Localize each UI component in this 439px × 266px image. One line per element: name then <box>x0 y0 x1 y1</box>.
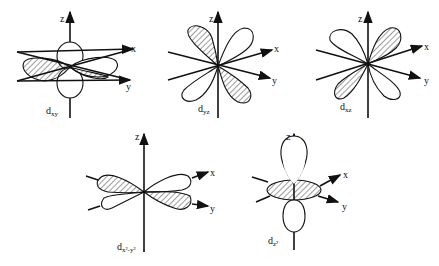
y-axis <box>17 80 130 81</box>
orbital-label-dxy: dxy <box>46 105 59 118</box>
x-label: x <box>424 41 429 52</box>
z-label: z <box>135 131 140 142</box>
x-label: x <box>210 167 215 178</box>
y-label: y <box>210 203 215 214</box>
x-label: x <box>343 169 348 180</box>
z-label: z <box>286 131 291 142</box>
y-axis <box>168 52 270 78</box>
orbital-label-dz2: dz² <box>268 235 278 248</box>
z-label: z <box>358 13 363 24</box>
y-label: y <box>272 75 277 86</box>
orbital-dyz: z x y dyz <box>168 12 279 118</box>
y-label: y <box>342 201 347 212</box>
orbital-label-dxz: dxz <box>340 101 352 114</box>
orbital-dxy: z x y dxy <box>17 12 136 118</box>
y-label: y <box>424 75 429 86</box>
z-label: z <box>60 13 65 24</box>
x-label: x <box>274 43 279 54</box>
orbital-dz2: z x y dz² <box>252 131 348 250</box>
z-label: z <box>209 13 214 24</box>
orbital-dxz: z x y dxz <box>316 12 429 118</box>
x-axis <box>320 175 340 186</box>
y-label: y <box>126 81 131 92</box>
y-axis <box>318 196 338 202</box>
y-axis <box>192 204 208 206</box>
x-label: x <box>131 43 136 54</box>
orbital-label-dx2-y2: dx²-y² <box>117 241 136 254</box>
orbital-dx2-y2: z x y dx²-y² <box>86 131 215 254</box>
d-orbitals-diagram: z x y dxy z x y dyz <box>0 0 439 266</box>
orbital-label-dyz: dyz <box>198 103 210 116</box>
x-axis <box>192 172 208 178</box>
